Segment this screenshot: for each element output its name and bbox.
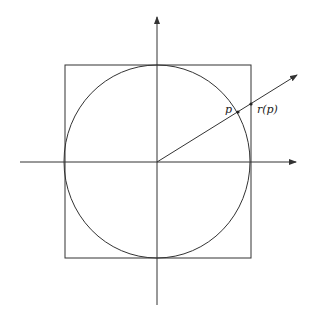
point-p <box>236 110 239 113</box>
point-r-of-p <box>249 102 252 105</box>
diagram-canvas: p r(p) <box>0 0 312 318</box>
ray-from-origin <box>157 75 297 162</box>
retraction-diagram: p r(p) <box>0 0 312 318</box>
label-r-of-p: r(p) <box>257 103 278 116</box>
label-p: p <box>225 103 232 116</box>
